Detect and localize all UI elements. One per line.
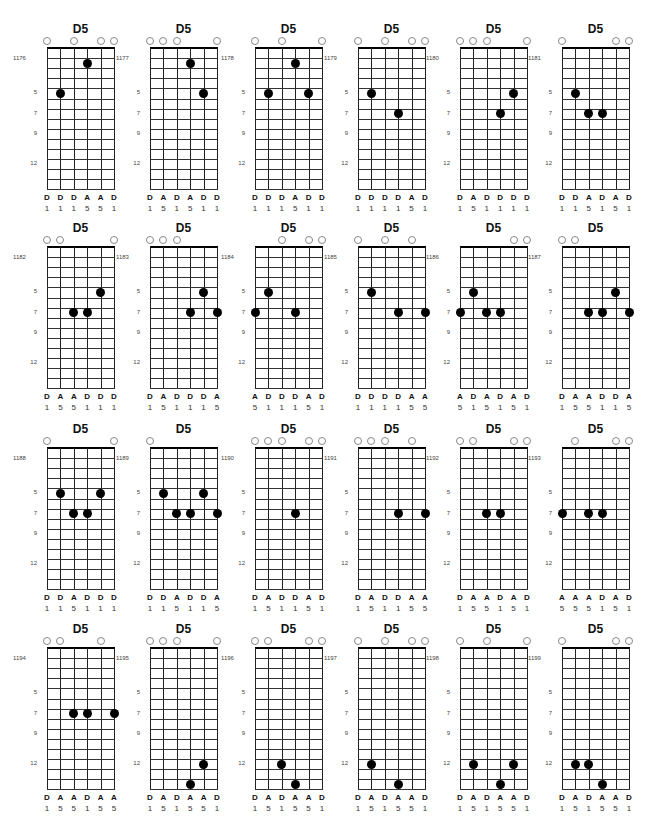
fret-marker-label: 12 bbox=[334, 760, 348, 766]
fret-marker-label: 9 bbox=[538, 130, 552, 136]
fret-line bbox=[255, 519, 323, 520]
fret-marker-label: 5 bbox=[23, 489, 37, 495]
string-note: A bbox=[109, 793, 119, 802]
fret-line bbox=[255, 699, 323, 700]
string-degree: 1 bbox=[145, 204, 155, 213]
open-string-icon bbox=[558, 236, 566, 244]
string-degree: 5 bbox=[158, 204, 168, 213]
fret-line bbox=[562, 169, 630, 170]
string-note: A bbox=[509, 392, 519, 401]
finger-dot-icon bbox=[83, 308, 92, 317]
open-string-icon bbox=[173, 637, 181, 645]
fret-marker-label: 9 bbox=[126, 329, 140, 335]
fret-line bbox=[358, 368, 426, 369]
fret-line bbox=[358, 318, 426, 319]
finger-dot-icon bbox=[496, 109, 505, 118]
chord-name: D5 bbox=[338, 622, 445, 636]
fret-line bbox=[562, 658, 630, 659]
string-note: A bbox=[509, 793, 519, 802]
fret-line bbox=[47, 257, 115, 258]
open-string-icon bbox=[56, 637, 64, 645]
string-degree: 5 bbox=[495, 804, 505, 813]
string-note: A bbox=[420, 392, 430, 401]
string-note: D bbox=[380, 193, 390, 202]
chord-number: 1186 bbox=[426, 254, 439, 260]
open-string-icon bbox=[354, 437, 362, 445]
finger-dot-icon bbox=[69, 709, 78, 718]
fret-line bbox=[460, 468, 528, 469]
fret-line bbox=[460, 189, 528, 190]
fret-line bbox=[150, 499, 218, 500]
string-degree: 1 bbox=[96, 403, 106, 412]
fret-marker-label: 12 bbox=[126, 760, 140, 766]
open-string-icon bbox=[625, 37, 633, 45]
string-note: A bbox=[290, 793, 300, 802]
finger-dot-icon bbox=[469, 760, 478, 769]
fret-line bbox=[47, 298, 115, 299]
string-note: D bbox=[42, 392, 52, 401]
fret-line bbox=[255, 68, 323, 69]
open-string-icon bbox=[408, 637, 416, 645]
open-string-icon bbox=[110, 236, 118, 244]
fret-line bbox=[255, 668, 323, 669]
fret-line bbox=[562, 298, 630, 299]
finger-dot-icon bbox=[83, 59, 92, 68]
fret-line bbox=[255, 78, 323, 79]
string-note: D bbox=[624, 193, 634, 202]
open-string-icon bbox=[421, 637, 429, 645]
fret-marker-label: 7 bbox=[334, 309, 348, 315]
string-degree: 1 bbox=[495, 403, 505, 412]
string-degree: 5 bbox=[55, 403, 65, 412]
open-string-icon bbox=[305, 236, 313, 244]
fret-line bbox=[562, 519, 630, 520]
string-note: D bbox=[55, 593, 65, 602]
string-degree: 1 bbox=[482, 804, 492, 813]
string-note: D bbox=[611, 392, 621, 401]
fret-line bbox=[150, 58, 218, 59]
fret-line bbox=[562, 318, 630, 319]
string-note: D bbox=[380, 392, 390, 401]
fret-marker-label: 5 bbox=[538, 489, 552, 495]
string-note: D bbox=[172, 793, 182, 802]
open-string-icon bbox=[523, 637, 531, 645]
chord-name: D5 bbox=[27, 22, 134, 36]
fret-line bbox=[47, 749, 115, 750]
fret-line bbox=[150, 688, 218, 689]
fret-marker-label: 7 bbox=[436, 510, 450, 516]
fret-line bbox=[150, 277, 218, 278]
finger-dot-icon bbox=[394, 109, 403, 118]
string-note: A bbox=[407, 392, 417, 401]
string-note: A bbox=[570, 793, 580, 802]
chord-name: D5 bbox=[440, 221, 547, 235]
string-degree: 5 bbox=[420, 403, 430, 412]
string-degree: 1 bbox=[522, 804, 532, 813]
fret-line bbox=[460, 179, 528, 180]
fret-line bbox=[150, 149, 218, 150]
string-note: D bbox=[250, 793, 260, 802]
string-degree: 5 bbox=[624, 403, 634, 412]
fret-marker-label: 12 bbox=[126, 560, 140, 566]
string-degree: 5 bbox=[584, 204, 594, 213]
string-note: D bbox=[304, 193, 314, 202]
fret-marker-label: 7 bbox=[23, 110, 37, 116]
chord-number: 1180 bbox=[426, 55, 439, 61]
finger-dot-icon bbox=[584, 308, 593, 317]
string-note: A bbox=[158, 193, 168, 202]
open-string-icon bbox=[354, 637, 362, 645]
fret-line bbox=[255, 189, 323, 190]
open-string-icon bbox=[146, 637, 154, 645]
fret-line bbox=[47, 519, 115, 520]
finger-dot-icon bbox=[482, 308, 491, 317]
chord-number: 1189 bbox=[116, 455, 129, 461]
open-string-icon bbox=[213, 37, 221, 45]
fret-line bbox=[358, 509, 426, 510]
fret-line bbox=[358, 308, 426, 309]
fret-marker-label: 5 bbox=[231, 89, 245, 95]
chord-number: 1185 bbox=[324, 254, 337, 260]
fret-line bbox=[460, 149, 528, 150]
fret-marker-label: 12 bbox=[231, 160, 245, 166]
fret-marker-label: 9 bbox=[538, 329, 552, 335]
finger-dot-icon bbox=[584, 509, 593, 518]
fret-line bbox=[150, 579, 218, 580]
fret-line bbox=[150, 257, 218, 258]
